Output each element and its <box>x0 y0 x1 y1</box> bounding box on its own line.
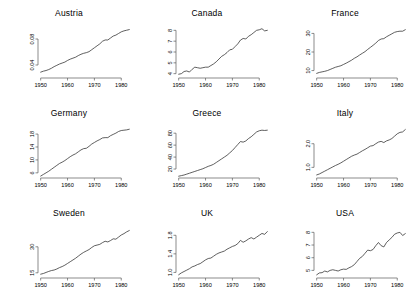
x-tick-label: 1950 <box>34 182 46 188</box>
plot-area: 61014181950196019701980 <box>0 100 138 200</box>
y-tick-label: 7 <box>305 243 311 246</box>
x-tick-label: 1950 <box>310 82 322 88</box>
plot-area: 15301950196019701980 <box>0 200 138 300</box>
plot-area: 456781950196019701980 <box>138 0 276 100</box>
y-tick-label: 6 <box>305 256 311 259</box>
x-tick-label: 1960 <box>337 282 349 288</box>
data-series-line <box>179 29 268 75</box>
x-tick-label: 1960 <box>337 82 349 88</box>
x-tick-label: 1950 <box>34 282 46 288</box>
x-tick-label: 1950 <box>172 282 184 288</box>
x-tick-label: 1980 <box>391 182 403 188</box>
y-tick-label: 30 <box>305 30 311 36</box>
x-tick-label: 1970 <box>88 182 100 188</box>
y-tick-label: 18 <box>29 131 35 137</box>
chart-panel-greece: Greece204060801950196019701980 <box>138 100 276 200</box>
x-tick-label: 1980 <box>253 182 265 188</box>
y-tick-label: 40 <box>167 154 173 160</box>
y-tick-label: 1.8 <box>167 231 173 239</box>
y-tick-label: 8 <box>167 29 173 32</box>
x-tick-label: 1970 <box>226 282 238 288</box>
x-tick-label: 1980 <box>253 82 265 88</box>
chart-panel-germany: Germany61014181950196019701980 <box>0 100 138 200</box>
x-tick-label: 1980 <box>391 282 403 288</box>
y-tick-label: 20 <box>305 49 311 55</box>
x-tick-label: 1970 <box>226 82 238 88</box>
chart-panel-uk: UK1.01.41.81950196019701980 <box>138 200 276 300</box>
x-tick-label: 1980 <box>115 82 127 88</box>
x-tick-label: 1970 <box>364 282 376 288</box>
x-tick-label: 1970 <box>88 282 100 288</box>
y-tick-label: 6 <box>29 171 35 174</box>
plot-area: 1.01.41.81950196019701980 <box>138 200 276 300</box>
x-tick-label: 1960 <box>199 182 211 188</box>
x-tick-label: 1950 <box>310 182 322 188</box>
y-tick-label: 5 <box>305 269 311 272</box>
chart-panel-france: France1020301950196019701980 <box>276 0 414 100</box>
data-series-line <box>317 232 406 274</box>
data-series-line <box>179 232 268 275</box>
chart-panel-austria: Austria0.040.081950196019701980 <box>0 0 138 100</box>
y-tick-label: 30 <box>29 244 35 250</box>
data-series-line <box>179 130 268 176</box>
y-tick-label: 15 <box>29 270 35 276</box>
y-tick-label: 4 <box>167 72 173 75</box>
x-tick-label: 1960 <box>199 282 211 288</box>
small-multiples-figure: Austria0.040.081950196019701980Canada456… <box>0 0 414 300</box>
x-tick-label: 1950 <box>172 82 184 88</box>
x-tick-label: 1970 <box>364 182 376 188</box>
data-series-line <box>317 130 406 175</box>
plot-area: 56781950196019701980 <box>276 200 414 300</box>
data-series-line <box>317 30 406 74</box>
x-tick-label: 1960 <box>61 282 73 288</box>
x-tick-label: 1980 <box>253 282 265 288</box>
chart-panel-italy: Italy1.02.01950196019701980 <box>276 100 414 200</box>
x-tick-label: 1960 <box>337 182 349 188</box>
plot-area: 1020301950196019701980 <box>276 0 414 100</box>
data-series-line <box>41 231 130 275</box>
y-tick-label: 1.0 <box>305 163 311 171</box>
chart-panel-canada: Canada456781950196019701980 <box>138 0 276 100</box>
y-tick-label: 14 <box>29 144 35 150</box>
y-tick-label: 8 <box>305 231 311 234</box>
y-tick-label: 10 <box>305 67 311 73</box>
plot-area: 1.02.01950196019701980 <box>276 100 414 200</box>
data-series-line <box>41 30 130 73</box>
x-tick-label: 1980 <box>391 82 403 88</box>
y-tick-label: 0.08 <box>29 34 35 45</box>
x-tick-label: 1960 <box>61 182 73 188</box>
y-tick-label: 1.0 <box>167 269 173 277</box>
x-tick-label: 1980 <box>115 182 127 188</box>
chart-panel-usa: USA56781950196019701980 <box>276 200 414 300</box>
y-tick-label: 7 <box>167 40 173 43</box>
chart-panel-sweden: Sweden15301950196019701980 <box>0 200 138 300</box>
y-tick-label: 0.04 <box>29 60 35 71</box>
plot-area: 204060801950196019701980 <box>138 100 276 200</box>
y-tick-label: 80 <box>167 130 173 136</box>
x-tick-label: 1950 <box>310 282 322 288</box>
y-tick-label: 1.4 <box>167 250 173 258</box>
data-series-line <box>41 129 130 176</box>
x-tick-label: 1970 <box>226 182 238 188</box>
y-tick-label: 20 <box>167 166 173 172</box>
x-tick-label: 1960 <box>199 82 211 88</box>
y-tick-label: 2.0 <box>305 140 311 148</box>
y-tick-label: 5 <box>167 61 173 64</box>
x-tick-label: 1970 <box>364 82 376 88</box>
y-tick-label: 6 <box>167 50 173 53</box>
y-tick-label: 60 <box>167 142 173 148</box>
x-tick-label: 1970 <box>88 82 100 88</box>
x-tick-label: 1960 <box>61 82 73 88</box>
x-tick-label: 1950 <box>34 82 46 88</box>
x-tick-label: 1950 <box>172 182 184 188</box>
y-tick-label: 10 <box>29 157 35 163</box>
plot-area: 0.040.081950196019701980 <box>0 0 138 100</box>
x-tick-label: 1980 <box>115 282 127 288</box>
